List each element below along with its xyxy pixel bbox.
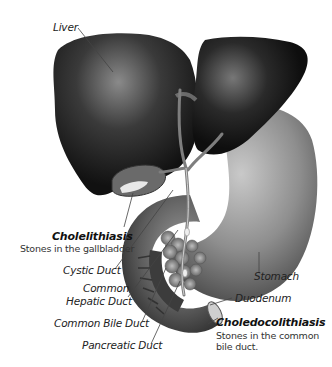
label-common-hepatic-duct-2: Hepatic Duct	[66, 295, 132, 307]
callout-choledocolithiasis-desc-2: bile duct.	[216, 341, 258, 352]
callout-cholelithiasis-title: Cholelithiasis	[52, 230, 133, 243]
callout-choledocolithiasis-desc-1: Stones in the common	[216, 330, 319, 341]
anatomy-illustration	[0, 0, 332, 367]
label-liver: Liver	[53, 21, 78, 33]
label-common-bile-duct: Common Bile Duct	[54, 317, 149, 329]
callout-cholelithiasis-desc: Stones in the gallbladder	[20, 243, 134, 254]
label-duodenum: Duodenum	[235, 292, 291, 304]
callout-choledocolithiasis-title: Choledocolithiasis	[216, 316, 325, 329]
label-cystic-duct: Cystic Duct	[63, 264, 121, 276]
label-common-hepatic-duct-1: Common	[83, 282, 129, 294]
label-pancreatic-duct: Pancreatic Duct	[82, 339, 162, 351]
label-stomach: Stomach	[254, 270, 299, 282]
